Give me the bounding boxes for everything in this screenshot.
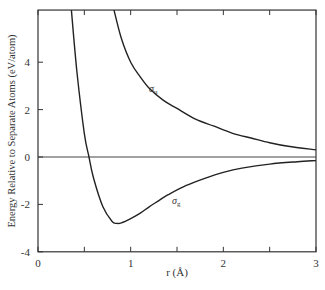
curve-sigma-g: [71, 10, 316, 223]
plot-border: [38, 10, 316, 252]
y-tick-label: 2: [25, 104, 31, 116]
sigma-u-label: σu: [149, 83, 158, 96]
x-tick-label: 3: [313, 257, 319, 269]
curves: [71, 10, 316, 223]
x-tick-label: 0: [35, 257, 41, 269]
y-tick-label: 0: [25, 151, 31, 163]
potential-energy-chart: -4-20240123 r (Å) Energy Relative to Sep…: [0, 0, 325, 290]
y-axis-label: Energy Relative to Separate Atoms (eV/at…: [6, 34, 18, 228]
axis-ticks: -4-20240123: [21, 10, 319, 269]
x-axis-label: r (Å): [166, 266, 188, 279]
y-tick-label: 4: [25, 56, 31, 68]
y-tick-label: -4: [21, 246, 31, 258]
plot-frame: [38, 10, 316, 252]
x-tick-label: 2: [221, 257, 227, 269]
y-tick-label: -2: [21, 198, 30, 210]
x-tick-label: 1: [128, 257, 134, 269]
sigma-g-label: σg: [172, 195, 181, 208]
curve-sigma-u: [114, 10, 316, 150]
